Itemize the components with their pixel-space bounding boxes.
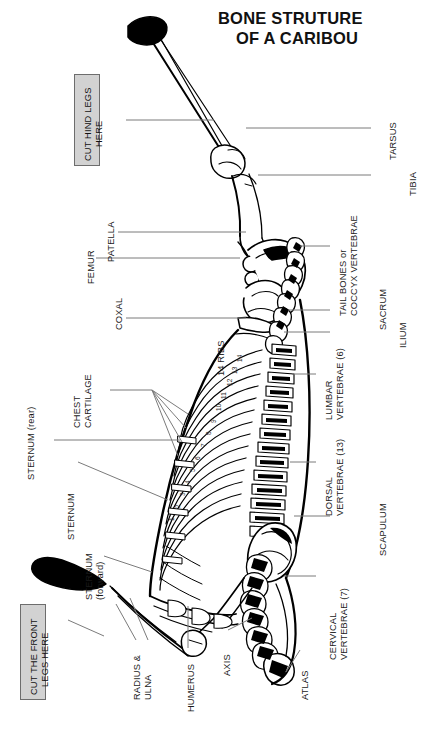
- cut-hind-legs-label: CUT HIND LEGSHERE: [83, 87, 104, 161]
- label-cervical-vertebrae: CERVICALVERTEBRAE (7): [328, 588, 349, 660]
- rib-number: 7: [200, 444, 207, 448]
- rib-number: 8: [205, 431, 212, 435]
- rib-number: 10: [215, 403, 222, 410]
- label-sacrum: SACRUM: [378, 289, 389, 330]
- rib-number: 1: [168, 517, 175, 521]
- label-sternum-rear: STERNUM (rear): [26, 407, 37, 480]
- cut-front-legs-label: CUT THE FRONTLEGS HERE: [29, 619, 50, 696]
- label-atlas: ATLAS: [300, 670, 311, 700]
- label-tail-bones: TAIL BONES orCOCCYX VERTEBRAE: [338, 215, 359, 316]
- rib-number: 6: [194, 456, 201, 460]
- label-radius-ulna: RADIUS &ULNA: [132, 655, 153, 700]
- label-sternum: STERNUM: [66, 493, 77, 540]
- chest-cartilage-detail: [160, 546, 202, 600]
- rib-number: 13: [231, 367, 238, 374]
- label-humerus: HUMERUS: [186, 664, 197, 712]
- spinal-column: [250, 344, 296, 538]
- label-sternum-forward: STERNUM(forward): [84, 553, 105, 600]
- rib-number: 2: [174, 505, 181, 509]
- label-lumbar-vertebrae: LUMBARVERTEBRAE (6): [324, 348, 345, 420]
- label-patella: PATELLA: [106, 222, 117, 263]
- diagram-canvas: BONE STRUTURE OF A CARIBOU: [0, 0, 425, 737]
- label-axis: AXIS: [222, 654, 233, 676]
- humerus-bone: [214, 578, 244, 618]
- rib-number: 12: [226, 379, 233, 386]
- label-coxal: COXAL: [114, 298, 125, 330]
- cut-hind-legs-box[interactable]: CUT HIND LEGSHERE: [74, 74, 100, 166]
- cut-front-legs-box[interactable]: CUT THE FRONTLEGS HERE: [20, 604, 46, 700]
- label-tibia: TIBIA: [408, 172, 419, 196]
- label-14-ribs: 14 RIBS: [216, 340, 227, 376]
- label-ilium: ILIUM: [398, 322, 409, 348]
- label-scapulum: SCAPULUM: [378, 503, 389, 556]
- rib-number: 3: [179, 492, 186, 496]
- rib-number: 14: [236, 355, 243, 362]
- rib-number: 9: [210, 419, 217, 423]
- label-femur: FEMUR: [86, 250, 97, 284]
- rib-number: 5: [189, 468, 196, 472]
- label-tarsus: TARSUS: [388, 122, 399, 160]
- caribou-skeleton-illustration: [0, 0, 425, 737]
- label-dorsal-vertebrae: DORSALVERTEBRAE (13): [324, 439, 345, 516]
- rib-number: 4: [184, 480, 191, 484]
- rib-cage: [160, 350, 262, 590]
- label-chest-cartilage: CHESTCARTILAGE: [72, 374, 93, 428]
- rib-number: 11: [220, 392, 227, 399]
